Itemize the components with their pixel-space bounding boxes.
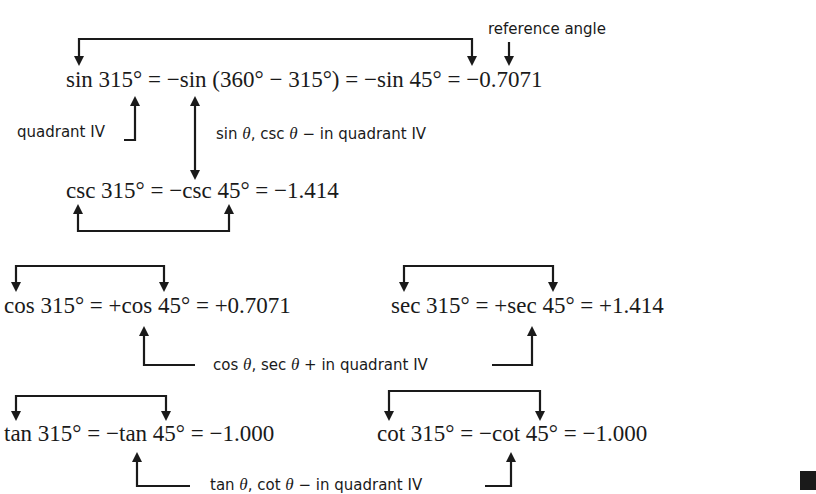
csc-bracket-arrow [78, 212, 229, 231]
tan-bracket-arrow [16, 396, 166, 413]
tan-sign-arrow [137, 460, 190, 486]
sin-csc-sign-label: sin θ, csc θ − in quadrant IV [216, 125, 426, 142]
cot-equation: cot 315° = −cot 45° = −1.000 [377, 422, 647, 445]
cos-equation: cos 315° = +cos 45° = +0.7071 [4, 294, 291, 317]
sin-bracket-arrow [79, 39, 472, 62]
sec-equation: sec 315° = +sec 45° = +1.414 [391, 294, 664, 317]
tan-cot-sign-label: tan θ, cot θ − in quadrant IV [210, 476, 422, 493]
sec-sign-arrow [492, 334, 532, 365]
sec-bracket-arrow [404, 266, 553, 284]
csc-equation: csc 315° = −csc 45° = −1.414 [66, 179, 339, 202]
tan-equation: tan 315° = −tan 45° = −1.000 [4, 422, 274, 445]
page-corner-mark [800, 471, 816, 490]
cot-sign-arrow [485, 460, 511, 486]
cos-sec-sign-label: cos θ, sec θ + in quadrant IV [213, 356, 428, 373]
reference-angle-label: reference angle [488, 22, 606, 37]
cos-bracket-arrow [16, 266, 164, 284]
cot-bracket-arrow [389, 391, 540, 413]
quadrant-iv-label: quadrant IV [17, 125, 105, 140]
cos-sign-arrow [144, 334, 195, 365]
quadrant-iv-arrow [124, 104, 135, 140]
sin-equation: sin 315° = −sin (360° − 315°) = −sin 45°… [66, 68, 542, 91]
